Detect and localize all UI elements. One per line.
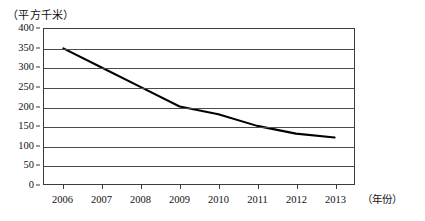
y-tick-mark	[36, 165, 40, 166]
gridline	[44, 147, 354, 148]
x-tick-mark	[219, 185, 220, 189]
x-tick-mark	[180, 185, 181, 189]
gridline	[44, 68, 354, 69]
y-tick-label: 0	[29, 180, 34, 190]
plot-area	[43, 28, 355, 185]
y-tick-label: 350	[18, 43, 34, 53]
y-tick-mark	[36, 185, 40, 186]
x-tick-label: 2009	[169, 194, 190, 205]
x-tick-label: 2011	[247, 194, 268, 205]
y-tick-label: 300	[18, 62, 34, 72]
gridline	[44, 127, 354, 128]
y-tick-mark	[36, 145, 40, 146]
y-axis-unit-caption: （平方千米）	[7, 9, 75, 22]
x-tick-mark	[336, 185, 337, 189]
y-tick-label: 200	[18, 102, 34, 112]
gridline	[44, 49, 354, 50]
y-tick-mark	[36, 106, 40, 107]
y-tick-label: 400	[18, 23, 34, 33]
x-axis-title: （年份）	[362, 194, 402, 205]
gridline	[44, 166, 354, 167]
x-tick-mark	[258, 185, 259, 189]
y-tick-mark	[36, 126, 40, 127]
y-tick-label: 50	[24, 160, 35, 170]
x-tick-mark	[297, 185, 298, 189]
x-tick-label: 2008	[130, 194, 151, 205]
x-tick-label: 2007	[91, 194, 112, 205]
y-tick-mark	[36, 67, 40, 68]
y-tick-label: 150	[18, 121, 34, 131]
series-line-layer	[44, 29, 354, 184]
x-tick-label: 2013	[325, 194, 346, 205]
series-line-area	[63, 48, 334, 137]
x-tick-label: 2006	[52, 194, 73, 205]
x-tick-label: 2010	[208, 194, 229, 205]
y-tick-mark	[36, 86, 40, 87]
x-tick-mark	[141, 185, 142, 189]
x-tick-mark	[63, 185, 64, 189]
line-chart-figure: （平方千米） 050100150200250300350400 20062007…	[0, 0, 425, 221]
y-tick-mark	[36, 28, 40, 29]
y-tick-label: 100	[18, 141, 34, 151]
y-tick-mark	[36, 47, 40, 48]
y-axis: 050100150200250300350400	[0, 28, 40, 185]
x-axis: 20062007200820092010201120122013	[43, 185, 355, 215]
gridline	[44, 88, 354, 89]
x-tick-label: 2012	[286, 194, 307, 205]
x-tick-mark	[102, 185, 103, 189]
gridline	[44, 108, 354, 109]
y-tick-label: 250	[18, 82, 34, 92]
